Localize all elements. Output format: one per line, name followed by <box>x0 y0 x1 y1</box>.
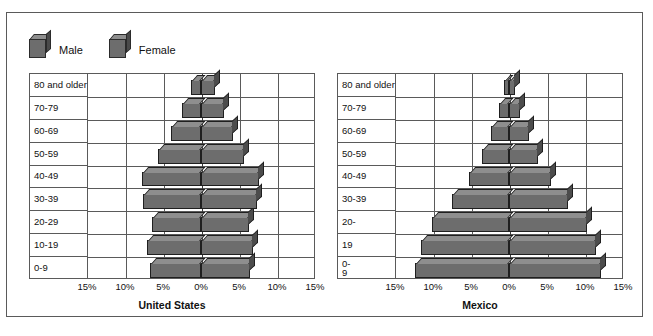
axis-tick-label: 10% <box>575 281 594 292</box>
bar-female <box>509 172 551 187</box>
pyramid-row <box>87 96 315 119</box>
bar-female <box>201 126 233 141</box>
bar-male <box>171 126 201 141</box>
pyramid-row <box>87 119 315 142</box>
age-label: 50-59 <box>30 143 87 166</box>
bars-us <box>87 73 315 279</box>
pyramid-row <box>395 165 623 188</box>
bar-female <box>509 149 538 164</box>
bar-male <box>491 126 509 141</box>
bar-male <box>182 103 201 118</box>
bar-female <box>201 240 253 255</box>
axis-tick-label: 5% <box>540 281 554 292</box>
bar-male <box>152 217 201 232</box>
bar-male <box>482 149 509 164</box>
pyramid-row <box>395 119 623 142</box>
axis-tick-label: 15% <box>77 281 96 292</box>
chart-mexico: 80 and older 70-79 60-69 50-59 40-49 30-… <box>337 73 623 279</box>
axis-tick-label: 10% <box>267 281 286 292</box>
bar-male <box>415 263 509 278</box>
bar-female <box>201 172 259 187</box>
pyramid-row <box>87 256 315 279</box>
age-label: 20- <box>338 211 395 234</box>
bar-male <box>469 172 509 187</box>
pyramid-row <box>395 233 623 256</box>
age-label: 40-49 <box>30 166 87 189</box>
bar-female <box>509 240 596 255</box>
bar-female <box>201 80 215 95</box>
age-label: 50-59 <box>338 143 395 166</box>
pyramid-row <box>395 96 623 119</box>
axis-tick-label: 10% <box>423 281 442 292</box>
pyramid-row <box>87 142 315 165</box>
pyramid-row <box>87 73 315 96</box>
plot-area-mexico: 80 and older 70-79 60-69 50-59 40-49 30-… <box>337 73 623 279</box>
bar-female <box>201 217 249 232</box>
x-axis-mx: 15%10%5%0%5%10%15% <box>395 281 623 297</box>
chart-title-mx: Mexico <box>337 299 623 311</box>
bar-female <box>509 80 515 95</box>
legend: Male Female <box>29 29 176 63</box>
x-axis-us: 15%10%5%0%5%10%15% <box>87 281 315 297</box>
bar-male <box>143 194 201 209</box>
axis-tick-label: 15% <box>385 281 404 292</box>
cube-icon <box>109 34 131 58</box>
age-label: 60-69 <box>30 120 87 143</box>
age-label: 0- 9 <box>338 257 395 280</box>
age-label: 20-29 <box>30 211 87 234</box>
bar-female <box>201 263 250 278</box>
axis-tick-label: 15% <box>305 281 324 292</box>
axis-tick-label: 0% <box>502 281 516 292</box>
chart-frame: Male Female 80 and older 70-79 60-69 50-… <box>6 12 643 317</box>
age-label: 0-9 <box>30 257 87 280</box>
bar-male <box>421 240 509 255</box>
age-label-column-us: 80 and older 70-79 60-69 50-59 40-49 30-… <box>29 73 87 279</box>
age-label: 19 <box>338 234 395 257</box>
bar-female <box>509 103 520 118</box>
chart-title-us: United States <box>29 299 315 311</box>
bar-male <box>158 149 201 164</box>
axis-tick-label: 0% <box>194 281 208 292</box>
pyramid-row <box>87 233 315 256</box>
age-label: 40-49 <box>338 166 395 189</box>
bar-female <box>509 194 568 209</box>
chart-united-states: 80 and older 70-79 60-69 50-59 40-49 30-… <box>29 73 315 279</box>
bar-female <box>509 217 587 232</box>
bar-male <box>499 103 509 118</box>
legend-label-male: Male <box>59 44 83 58</box>
age-label-line2: 9 <box>342 268 350 278</box>
plot-area-united-states: 80 and older 70-79 60-69 50-59 40-49 30-… <box>29 73 315 279</box>
bar-male <box>191 80 201 95</box>
legend-item-male: Male <box>29 34 83 58</box>
bars-mx <box>395 73 623 279</box>
pyramid-row <box>87 210 315 233</box>
age-label: 80 and older <box>30 74 87 97</box>
legend-label-female: Female <box>139 44 176 58</box>
bar-male <box>432 217 509 232</box>
age-label-line1: 20- <box>342 217 356 227</box>
age-label-line1: 19 <box>342 240 353 250</box>
age-label: 30-39 <box>338 188 395 211</box>
pyramid-row <box>395 187 623 210</box>
bar-female <box>509 263 601 278</box>
age-label: 60-69 <box>338 120 395 143</box>
age-label: 10-19 <box>30 234 87 257</box>
pyramid-row <box>395 256 623 279</box>
pyramid-row <box>395 142 623 165</box>
age-label: 70-79 <box>30 97 87 120</box>
legend-item-female: Female <box>109 34 176 58</box>
age-label: 30-39 <box>30 188 87 211</box>
bar-female <box>201 103 224 118</box>
pyramid-row <box>395 73 623 96</box>
age-label-column-mx: 80 and older 70-79 60-69 50-59 40-49 30-… <box>337 73 395 279</box>
bar-male <box>452 194 509 209</box>
pyramid-row <box>87 165 315 188</box>
bar-female <box>201 194 257 209</box>
pyramid-row <box>395 210 623 233</box>
pyramid-row <box>87 187 315 210</box>
bar-female <box>201 149 244 164</box>
axis-tick-label: 5% <box>464 281 478 292</box>
bar-male <box>147 240 201 255</box>
axis-tick-label: 5% <box>232 281 246 292</box>
bar-male <box>142 172 201 187</box>
